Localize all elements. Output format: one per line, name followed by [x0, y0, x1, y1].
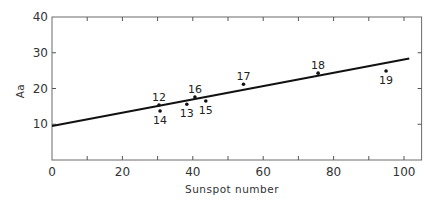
data-point-label: 13	[180, 107, 194, 120]
data-point-label: 16	[188, 83, 202, 96]
x-tick-label: 0	[48, 165, 56, 179]
y-tick-label: 20	[33, 82, 48, 96]
plot-frame	[52, 17, 422, 160]
x-tick-label: 60	[256, 165, 271, 179]
x-axis-label: Sunspot number	[185, 183, 279, 195]
x-tick-label: 20	[115, 165, 130, 179]
data-point-label: 15	[199, 104, 213, 117]
data-point	[158, 109, 162, 113]
x-tick-label: 80	[326, 165, 341, 179]
regression-line	[52, 58, 409, 126]
data-point	[185, 102, 189, 106]
y-tick-label: 40	[33, 10, 48, 24]
data-point	[384, 69, 388, 73]
y-tick-label: 30	[33, 46, 48, 60]
plot-area: 020406080100102030401214131615171819	[33, 10, 422, 179]
y-axis-label: Aa	[14, 84, 26, 99]
data-point-label: 18	[311, 59, 325, 72]
data-point-label: 14	[153, 114, 167, 127]
x-tick-label: 40	[185, 165, 200, 179]
scatter-chart: 020406080100102030401214131615171819 Sun…	[0, 0, 443, 205]
data-point-label: 19	[379, 74, 393, 87]
data-point-label: 17	[236, 70, 250, 83]
y-tick-label: 10	[33, 117, 48, 131]
data-point-label: 12	[152, 91, 166, 104]
data-point	[204, 99, 208, 103]
x-tick-label: 100	[393, 165, 416, 179]
